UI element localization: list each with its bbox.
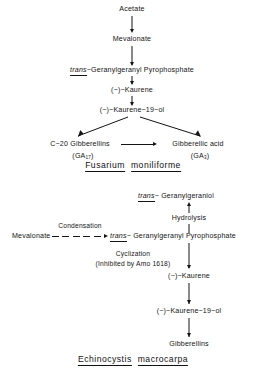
trans-prefix: trans bbox=[138, 192, 155, 202]
arrowhead-down-left-icon bbox=[78, 130, 83, 137]
node-mevalonate-2: Mevalonate bbox=[12, 232, 50, 240]
trans-prefix: trans bbox=[70, 66, 87, 76]
node-mevalonate: Mevalonate bbox=[113, 35, 151, 43]
arrowhead-right-icon bbox=[104, 234, 108, 238]
branch-arrows-group bbox=[0, 115, 265, 155]
trans-prefix: trans bbox=[110, 232, 127, 242]
ga-close: ) bbox=[207, 152, 210, 160]
caption-species: moniliforme bbox=[131, 160, 181, 172]
arrowhead-down-right-icon bbox=[195, 130, 201, 137]
node-trans-geranylgeranyl-pyrophosphate-2: trans− Geranylgeranyl Pyrophosphate bbox=[110, 232, 236, 240]
arrow-c20-to-gibberellic-acid bbox=[121, 144, 154, 145]
caption-genus: Fusarium bbox=[85, 160, 125, 172]
figure-canvas: Acetate Mevalonate trans−Geranylgeranyl … bbox=[0, 0, 265, 374]
branch-arrow-right bbox=[140, 117, 200, 136]
caption-fusarium-moniliforme: Fusariummoniliforme bbox=[85, 160, 181, 170]
arrowhead-down-icon bbox=[187, 300, 191, 304]
node-trans-geranylgeranyl-pyrophosphate: trans−Geranylgeranyl Pyrophosphate bbox=[70, 66, 194, 74]
dashed-arrow-condensation bbox=[52, 236, 101, 237]
node-kaurene: (−)−Kaurene bbox=[111, 86, 153, 94]
caption-genus: Echinocystis bbox=[78, 354, 132, 366]
node-gibberellins: Gibberellins bbox=[169, 340, 209, 348]
node-gibberellic-acid: Gibberellic acid bbox=[172, 140, 223, 148]
arrowhead-down-icon bbox=[187, 265, 191, 269]
node-c20-gibberellins: C−20 Gibberellins bbox=[50, 140, 110, 148]
arrowhead-down-icon bbox=[130, 29, 134, 33]
node-kaurene-19-ol-2: (−)−Kaurene−19−ol bbox=[157, 307, 222, 315]
arrowhead-up-icon bbox=[187, 202, 191, 206]
node-kaurene-19-ol: (−)−Kaurene−19−ol bbox=[100, 106, 165, 114]
arrowhead-down-icon bbox=[187, 333, 191, 337]
label-cyclization: Cyclization bbox=[116, 250, 150, 258]
label-inhibitor: (Inhibited by Amo 1618) bbox=[96, 260, 171, 268]
label-condensation: Condensation bbox=[58, 222, 101, 230]
caption-species: macrocarpa bbox=[138, 354, 188, 366]
node-acetate: Acetate bbox=[119, 5, 144, 13]
ggpp-rest: −Geranylgeranyl Pyrophosphate bbox=[87, 66, 194, 74]
caption-echinocystis-macrocarpa: Echinocystismacrocarpa bbox=[78, 354, 188, 364]
arrowhead-down-icon bbox=[130, 81, 134, 85]
ggol-rest: − Geranylgeraniol bbox=[155, 192, 214, 200]
node-trans-geranylgeraniol: trans− Geranylgeraniol bbox=[138, 192, 214, 200]
ga-open: (GA bbox=[72, 152, 85, 160]
ga-open: (GA bbox=[191, 152, 204, 160]
branch-arrow-left bbox=[78, 117, 128, 136]
ga-close: ) bbox=[91, 152, 94, 160]
arrowhead-right-icon bbox=[153, 142, 157, 146]
node-gibberellic-acid-code: (GA3) bbox=[191, 152, 209, 160]
node-kaurene-2: (−)−Kaurene bbox=[168, 272, 210, 280]
label-hydrolysis: Hydrolysis bbox=[172, 214, 207, 222]
ggpp2-rest: − Geranylgeranyl Pyrophosphate bbox=[127, 232, 236, 240]
node-c20-gibberellins-code: (GA17) bbox=[72, 152, 93, 160]
